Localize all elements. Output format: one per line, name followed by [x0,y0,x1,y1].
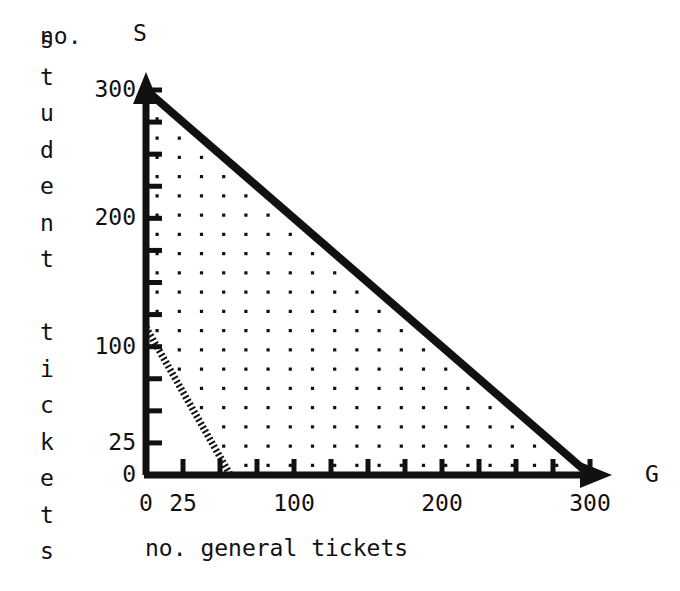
lattice-dot [222,252,225,255]
lattice-dot [378,348,381,351]
lattice-dot [422,425,425,428]
lattice-dot [333,348,336,351]
capacity-boundary-line [146,90,590,475]
lattice-dot [244,445,247,448]
lattice-dot [267,252,270,255]
lattice-dot [444,406,447,409]
lattice-dot [267,310,270,313]
feasible-region-dot-fill [156,117,559,467]
lattice-dot [267,348,270,351]
lattice-dot [267,233,270,236]
lattice-dot [289,291,292,294]
lattice-dot [511,425,514,428]
lattice-dot [422,348,425,351]
lattice-dot [311,271,314,274]
lattice-dot [400,425,403,428]
lattice-dot [333,271,336,274]
lattice-dot [178,329,181,332]
lattice-dot [200,368,203,371]
lattice-dot [200,329,203,332]
lattice-dot [244,291,247,294]
lattice-dot [333,329,336,332]
lattice-dot [267,387,270,390]
lattice-dot [244,271,247,274]
lattice-dot [244,310,247,313]
lattice-dot [222,271,225,274]
lattice-dot [178,156,181,159]
lattice-dot [289,445,292,448]
lattice-dot [178,291,181,294]
lattice-dot [289,329,292,332]
lattice-dot [222,368,225,371]
lattice-dot [267,214,270,217]
lattice-dot [156,291,159,294]
lattice-dot [200,406,203,409]
lattice-dot [422,406,425,409]
lattice-dot [178,252,181,255]
lattice-dot [378,425,381,428]
lattice-dot [222,445,225,448]
lattice-dot [156,137,159,140]
lattice-dot [178,233,181,236]
lattice-dot [311,387,314,390]
lattice-dot [311,348,314,351]
lattice-dot [200,252,203,255]
lattice-dot [156,329,159,332]
lattice-dot [311,445,314,448]
lattice-dot [466,445,469,448]
lattice-dot [244,387,247,390]
lattice-dot [178,175,181,178]
lattice-dot [555,464,558,467]
lattice-dot [333,425,336,428]
lattice-dot [222,214,225,217]
lattice-dot [444,445,447,448]
lattice-dot [244,425,247,428]
lattice-dot [533,445,536,448]
lattice-dot [244,406,247,409]
lattice-dot [178,348,181,351]
lattice-dot [178,310,181,313]
secondary-constraint-line [146,327,230,475]
lattice-dot [156,233,159,236]
lattice-dot [311,329,314,332]
lattice-dot [355,464,358,467]
lattice-dot [289,310,292,313]
lattice-dot [289,252,292,255]
lattice-dot [355,310,358,313]
lattice-dot [311,368,314,371]
lattice-dot [222,194,225,197]
lattice-dot [400,348,403,351]
lattice-dot [200,214,203,217]
lattice-dot [289,348,292,351]
lattice-dot [466,464,469,467]
lattice-dot [333,291,336,294]
plot-canvas [0,0,680,591]
lattice-dot [244,194,247,197]
lattice-dot [355,425,358,428]
lattice-dot [400,329,403,332]
lattice-dot [444,464,447,467]
lattice-dot [156,194,159,197]
lattice-dot [244,252,247,255]
lattice-dot [289,233,292,236]
lattice-dot [378,368,381,371]
lattice-dot [200,310,203,313]
lattice-dot [444,368,447,371]
lattice-dot [378,406,381,409]
lattice-dot [289,464,292,467]
lattice-dot [178,194,181,197]
lattice-dot [422,464,425,467]
lattice-dot [200,156,203,159]
lattice-dot [422,387,425,390]
lattice-dot [466,425,469,428]
lattice-dot [466,387,469,390]
lattice-dot [156,175,159,178]
lattice-dot [178,368,181,371]
lattice-dot [289,387,292,390]
lattice-dot [222,406,225,409]
lattice-dot [311,291,314,294]
lattice-dot [489,425,492,428]
lattice-dot [333,387,336,390]
lattice-dot [311,425,314,428]
lattice-dot [156,271,159,274]
